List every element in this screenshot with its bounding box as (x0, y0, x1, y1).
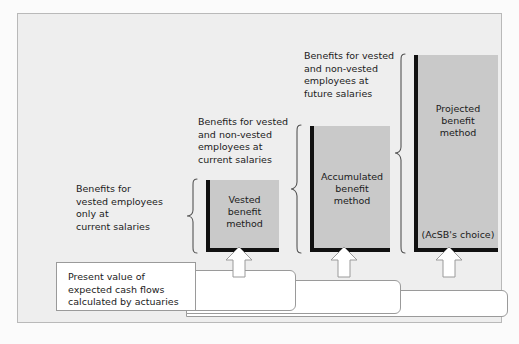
annotation-vested-nonvested-current: Benefits for vested and non-vested emplo… (198, 116, 290, 166)
bar-sublabel-acsb-choice: (AcSB's choice) (418, 229, 498, 241)
bar-label-vested: Vested benefit method (210, 194, 279, 231)
bar-projected-benefit-method: Projected benefit method (AcSB's choice) (414, 55, 498, 252)
arrow-to-projected-icon (434, 246, 464, 278)
bar-label-accumulated: Accumulated benefit method (314, 171, 390, 208)
brace-accumulated-icon (288, 124, 304, 254)
annotation-vested-only: Benefits for vested employees only at cu… (76, 183, 180, 233)
brace-vested-icon (184, 178, 200, 254)
arrow-to-accumulated-icon (329, 246, 359, 278)
bar-vested-benefit-method: Vested benefit method (206, 180, 279, 252)
source-box: Present value of expected cash flows cal… (56, 262, 196, 311)
source-box-text: Present value of expected cash flows cal… (68, 271, 179, 309)
bar-label-projected: Projected benefit method (418, 103, 498, 140)
bar-accumulated-benefit-method: Accumulated benefit method (310, 126, 390, 252)
figure-panel: Vested benefit method Accumulated benefi… (17, 13, 502, 323)
arrow-to-vested-icon (224, 246, 254, 278)
figure-canvas: Vested benefit method Accumulated benefi… (0, 0, 519, 344)
annotation-vested-nonvested-future: Benefits for vested and non-vested emplo… (304, 50, 396, 100)
